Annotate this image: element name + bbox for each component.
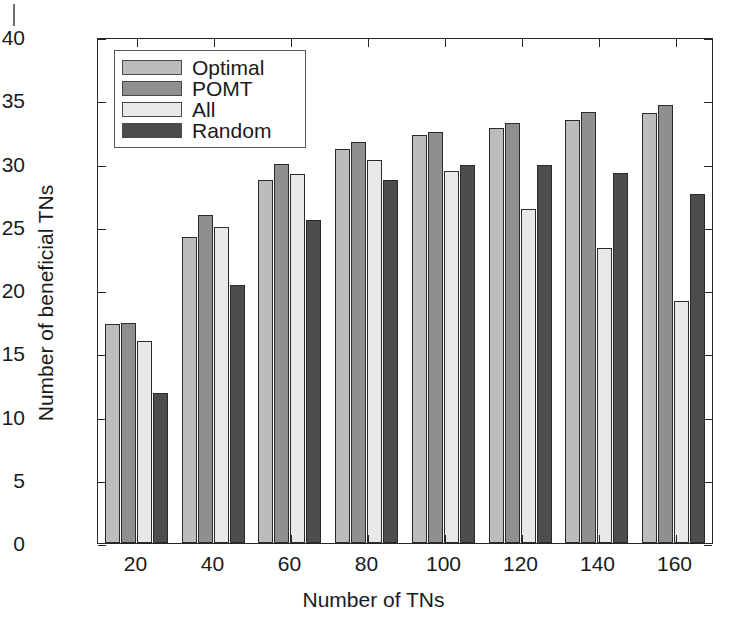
x-tick-label: 160 — [657, 552, 692, 576]
x-tick-mark — [522, 535, 523, 543]
y-tick-label: 15 — [2, 342, 25, 366]
y-tick-mark — [98, 39, 106, 40]
legend-item: POMT — [122, 78, 297, 99]
bar-group — [635, 39, 712, 543]
y-tick-mark — [98, 419, 106, 420]
bar — [581, 112, 596, 543]
bar — [690, 194, 705, 543]
x-tick-mark — [368, 535, 369, 543]
bar — [198, 215, 213, 543]
y-tick-label: 20 — [2, 279, 25, 303]
bar — [658, 105, 673, 543]
bar — [597, 248, 612, 543]
bar — [258, 180, 273, 543]
bar — [412, 135, 427, 543]
bar — [351, 142, 366, 543]
x-tick-label: 80 — [355, 552, 378, 576]
y-tick-mark-right — [704, 166, 712, 167]
bar — [444, 171, 459, 543]
x-axis-title: Number of TNs — [0, 588, 747, 612]
x-tick-label: 20 — [124, 552, 147, 576]
x-tick-label: 60 — [278, 552, 301, 576]
legend-swatch — [122, 81, 182, 96]
bar — [137, 341, 152, 543]
x-tick-mark-top — [445, 39, 446, 47]
y-tick-mark — [98, 229, 106, 230]
y-tick-label: 30 — [2, 153, 25, 177]
x-tick-mark-top — [214, 39, 215, 47]
legend-item: Random — [122, 120, 297, 141]
bar-group — [559, 39, 636, 543]
x-tick-label: 100 — [426, 552, 461, 576]
bar — [642, 113, 657, 543]
x-tick-mark-top — [676, 39, 677, 47]
x-tick-mark — [676, 535, 677, 543]
bar-group — [482, 39, 559, 543]
bar — [460, 165, 475, 543]
bar — [306, 220, 321, 543]
legend-item: All — [122, 99, 297, 120]
x-tick-mark — [214, 535, 215, 543]
x-tick-mark-top — [137, 39, 138, 47]
legend-item: Optimal — [122, 57, 297, 78]
bar — [489, 128, 504, 543]
bar — [153, 393, 168, 543]
bar-group — [405, 39, 482, 543]
legend-label: Random — [192, 120, 271, 141]
x-tick-mark — [599, 535, 600, 543]
y-tick-mark-right — [704, 39, 712, 40]
y-tick-mark — [98, 102, 106, 103]
y-tick-mark-right — [704, 102, 712, 103]
y-tick-mark-right — [704, 229, 712, 230]
x-tick-mark — [291, 535, 292, 543]
bar — [383, 180, 398, 543]
y-tick-label: 25 — [2, 216, 25, 240]
legend-swatch — [122, 60, 182, 75]
y-tick-mark — [98, 292, 106, 293]
legend-swatch — [122, 123, 182, 138]
x-tick-mark — [445, 535, 446, 543]
x-tick-mark — [137, 535, 138, 543]
y-tick-label: 5 — [13, 469, 25, 493]
bar — [565, 120, 580, 543]
y-tick-mark — [98, 166, 106, 167]
bar — [537, 165, 552, 543]
y-tick-mark-right — [704, 545, 712, 546]
bar — [613, 173, 628, 543]
x-tick-mark-top — [291, 39, 292, 47]
y-tick-label: 35 — [2, 89, 25, 113]
x-tick-label: 40 — [201, 552, 224, 576]
bar — [290, 174, 305, 543]
bar — [274, 164, 289, 543]
chart-legend: OptimalPOMTAllRandom — [114, 50, 306, 148]
y-tick-mark-right — [704, 419, 712, 420]
bar — [230, 285, 245, 543]
bar — [121, 323, 136, 544]
y-axis-title: Number of beneficial TNs — [34, 53, 58, 553]
y-tick-mark-right — [704, 482, 712, 483]
legend-label: POMT — [192, 78, 253, 99]
bar — [428, 132, 443, 543]
y-tick-label: 0 — [13, 532, 25, 556]
y-tick-mark — [98, 482, 106, 483]
x-tick-label: 140 — [580, 552, 615, 576]
bar-chart-figure: 0510152025303540 20406080100120140160 Nu… — [0, 0, 747, 625]
legend-label: Optimal — [192, 57, 264, 78]
x-tick-mark-top — [522, 39, 523, 47]
y-tick-mark-right — [704, 292, 712, 293]
x-tick-mark-top — [368, 39, 369, 47]
y-tick-label: 40 — [2, 26, 25, 50]
bar — [335, 149, 350, 543]
legend-label: All — [192, 99, 215, 120]
bar-group — [328, 39, 405, 543]
bar — [505, 123, 520, 543]
bar — [521, 209, 536, 543]
y-tick-mark-right — [704, 355, 712, 356]
bar — [182, 237, 197, 543]
x-tick-mark-top — [599, 39, 600, 47]
bar — [214, 227, 229, 543]
bar — [367, 160, 382, 543]
x-tick-label: 120 — [503, 552, 538, 576]
y-tick-mark — [98, 355, 106, 356]
y-tick-label: 10 — [2, 406, 25, 430]
